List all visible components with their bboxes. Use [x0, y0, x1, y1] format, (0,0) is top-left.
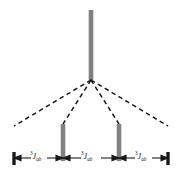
dashed-line-outer-right [91, 80, 168, 126]
coupling-label-left: 3Jab [30, 151, 41, 162]
dashed-line-inner-left [63, 80, 91, 124]
coupling-tree-figure: 3Jab 3Jab 3Jab [0, 0, 182, 175]
coupling-label-left-subscript: ab [36, 156, 41, 162]
dashed-line-inner-right [91, 80, 119, 124]
coupling-label-right-subscript: ab [141, 156, 146, 162]
coupling-label-center-subscript: ab [87, 156, 92, 162]
figure-canvas [0, 0, 182, 175]
dashed-line-outer-left [14, 80, 91, 126]
coupling-label-center: 3Jab [81, 151, 92, 162]
coupling-label-right: 3Jab [135, 151, 146, 162]
